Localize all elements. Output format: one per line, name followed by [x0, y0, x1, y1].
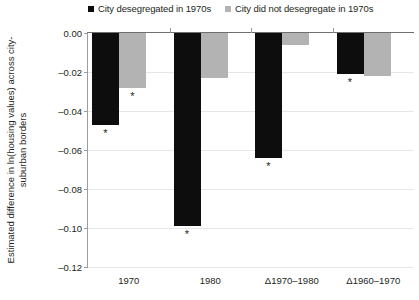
gridline [88, 150, 414, 151]
legend-item-desegregated: City desegregated in 1970s [88, 4, 211, 14]
bar [119, 33, 146, 88]
x-axis-category-label: 1970 [118, 275, 139, 286]
category-separator-tick [251, 28, 252, 33]
gridline [88, 189, 414, 190]
square-marker-icon [225, 6, 231, 12]
gridline [88, 111, 414, 112]
chart-legend: City desegregated in 1970s City did not … [88, 2, 373, 16]
y-axis-tick-label: 0.00 [64, 28, 83, 39]
y-axis-tick [84, 72, 88, 73]
y-axis-tick [84, 33, 88, 34]
bar [174, 33, 201, 226]
gridline [88, 228, 414, 229]
y-axis-tick-label: –0.12 [58, 262, 82, 273]
category-separator-tick [170, 28, 171, 33]
y-axis-tick-label: –0.06 [58, 145, 82, 156]
square-marker-icon [88, 6, 94, 12]
y-axis-tick-label: –0.02 [58, 67, 82, 78]
gridline [88, 267, 414, 268]
legend-label: City did not desegregate in 1970s [235, 4, 373, 14]
significance-marker: * [103, 128, 107, 139]
x-axis-category-label: Δ1960–1970 [346, 275, 400, 286]
bar [255, 33, 282, 158]
y-axis-tick [84, 228, 88, 229]
legend-label: City desegregated in 1970s [98, 4, 211, 14]
plot-inner: ***** [88, 33, 414, 267]
bar [282, 33, 309, 45]
y-axis-title: Estimated difference in ln(housing value… [2, 33, 32, 267]
bar [337, 33, 364, 74]
x-axis-category-label: 1980 [200, 275, 221, 286]
y-axis-tick-label: –0.08 [58, 184, 82, 195]
y-axis-tick [84, 150, 88, 151]
significance-marker: * [130, 91, 134, 102]
y-axis-tick [84, 189, 88, 190]
y-axis-tick-label: –0.04 [58, 106, 82, 117]
significance-marker: * [348, 77, 352, 88]
x-axis-category-label: Δ1970–1980 [265, 275, 319, 286]
significance-marker: * [266, 161, 270, 172]
legend-item-not-desegregated: City did not desegregate in 1970s [225, 4, 373, 14]
bar [201, 33, 228, 78]
category-separator-tick [333, 28, 334, 33]
bar [92, 33, 119, 125]
y-axis-tick-label: –0.10 [58, 223, 82, 234]
significance-marker: * [185, 229, 189, 240]
bar [364, 33, 391, 76]
chart-plot-area: ***** 0.00–0.02–0.04–0.06–0.08–0.10–0.12… [88, 33, 414, 267]
y-axis-tick [84, 111, 88, 112]
y-axis-tick [84, 267, 88, 268]
